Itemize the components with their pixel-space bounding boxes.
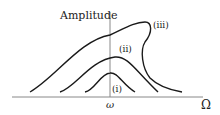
x-tick-label-omega: ω <box>106 99 114 110</box>
resonance-diagram: Amplitude Ω ω (i) (ii) (iii) <box>0 0 220 115</box>
x-axis-label: Ω <box>201 98 211 112</box>
curve-label-ii: (ii) <box>119 44 132 54</box>
curve-iii <box>30 22 182 92</box>
curve-label-i: (i) <box>112 84 122 94</box>
y-axis-label: Amplitude <box>59 9 118 22</box>
curve-label-iii: (iii) <box>153 20 169 30</box>
